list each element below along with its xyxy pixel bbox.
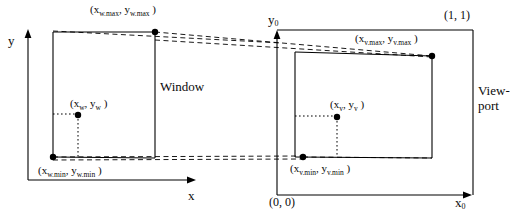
- window-interior-point-label: (xw, yw ): [70, 98, 107, 112]
- window-min-close: ): [95, 164, 101, 176]
- viewport-min-close: ): [344, 162, 350, 174]
- viewport-pt-sep: , y: [343, 98, 354, 110]
- viewport-max-open: (x: [355, 32, 364, 44]
- viewport-pt-open: (x: [330, 98, 339, 110]
- window-max-close: ): [150, 3, 156, 15]
- window-max-point-label: (xw.max, yw.max ): [90, 4, 156, 18]
- window-min-point-label: (xw.min, yw.min ): [38, 165, 102, 179]
- mapping-lines: [53, 31, 432, 160]
- viewport-min-sub2: v.min: [327, 168, 344, 177]
- viewport-min-point: [300, 154, 306, 160]
- window-max-sub1: w.max: [99, 9, 119, 18]
- viewport-y-axis-label: y0: [268, 13, 279, 28]
- viewport-unit-corner-label: (1, 1): [444, 9, 470, 21]
- window-min-open: (x: [38, 164, 47, 176]
- viewport-max-close: ): [411, 32, 417, 44]
- viewport-origin-label: (0, 0): [269, 196, 295, 208]
- viewport-y-axis-subscript: 0: [275, 19, 279, 28]
- viewport-interior-point-label: (xv, yv ): [330, 99, 364, 113]
- mapping-line-bottom-lower: [53, 159, 303, 160]
- window-pt-open: (x: [70, 97, 79, 109]
- window-max-open: (x: [90, 3, 99, 15]
- viewport-max-sub2: v.max: [393, 38, 411, 47]
- window-point-guides: [53, 114, 78, 157]
- viewport-x-axis-label: x0: [455, 196, 466, 211]
- viewport-max-point-label: (xv.max, yv.max ): [355, 33, 418, 47]
- viewport-pt-close: ): [358, 98, 364, 110]
- viewport-max-sub1: v.max: [364, 38, 382, 47]
- viewport-min-sep: , y: [316, 162, 327, 174]
- viewport-x-axis-subscript: 0: [462, 202, 466, 211]
- viewport-min-point-label: (xv.min, yv.min ): [290, 163, 350, 177]
- viewport-y-axis: [274, 30, 281, 195]
- viewport-max-sep: , y: [382, 32, 393, 44]
- window-x-axis-label: x: [188, 189, 195, 202]
- viewport-region-label-line2: port: [478, 99, 510, 114]
- viewport-x-axis: [277, 192, 472, 199]
- viewport-region-label-line1: View-: [478, 84, 510, 99]
- mapping-line-bottom-upper: [53, 156, 303, 157]
- viewport-min-open: (x: [290, 162, 299, 174]
- window-min-sub1: w.min: [47, 170, 65, 179]
- viewport-min-sub1: v.min: [299, 168, 316, 177]
- window-max-sep: , y: [119, 3, 130, 15]
- window-rect: [53, 32, 155, 158]
- window-interior-point: [75, 112, 81, 118]
- window-pt-close: ): [101, 97, 107, 109]
- viewport-region-label: View- port: [478, 84, 510, 113]
- window-region-label: Window: [160, 80, 204, 93]
- window-pt-sep: , y: [85, 97, 96, 109]
- window-min-sep: , y: [66, 164, 77, 176]
- window-min-sub2: w.min: [77, 170, 95, 179]
- viewport-max-point: [429, 53, 435, 59]
- window-viewport-diagram: y x (xw.max, yw.max ) (xw.min, yw.min ) …: [0, 0, 510, 217]
- window-y-axis: [25, 29, 32, 180]
- viewport-point-guides: [295, 116, 337, 157]
- viewport-interior-point: [334, 114, 340, 120]
- window-y-axis-label: y: [8, 34, 15, 47]
- window-max-sub2: w.max: [130, 9, 150, 18]
